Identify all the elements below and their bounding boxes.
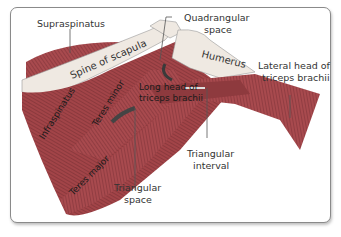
label-triangular-interval-2: interval: [193, 160, 229, 171]
label-quadrangular-space-2: space: [204, 24, 232, 35]
label-triangular-space-2: space: [124, 194, 152, 205]
label-triangular-interval-1: Triangular: [186, 148, 234, 159]
label-quadrangular-space-1: Quadrangular: [184, 12, 250, 23]
label-long-head-1: Long head of: [139, 82, 198, 92]
label-lateral-head-2: triceps brachii: [262, 72, 330, 83]
shoulder-diagram: Supraspinatus Spine of scapula Quadrangu…: [0, 0, 341, 237]
label-lateral-head-1: Lateral head of: [258, 60, 331, 71]
label-supraspinatus: Supraspinatus: [37, 18, 105, 29]
label-long-head-2: triceps brachii: [139, 93, 203, 103]
label-triangular-space-1: Triangular: [113, 182, 161, 193]
